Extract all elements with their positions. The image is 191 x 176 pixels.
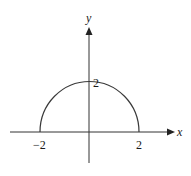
x-axis-arrow-icon bbox=[167, 129, 175, 136]
semicircle-plot: y x −2 2 2 bbox=[0, 0, 191, 176]
x-tick-label-neg2: −2 bbox=[33, 138, 46, 152]
y-tick-label-2: 2 bbox=[93, 76, 99, 90]
y-axis-arrow-icon bbox=[86, 27, 93, 35]
x-axis-label: x bbox=[176, 125, 183, 139]
x-tick-label-pos2: 2 bbox=[136, 138, 142, 152]
y-axis-label: y bbox=[85, 11, 92, 25]
